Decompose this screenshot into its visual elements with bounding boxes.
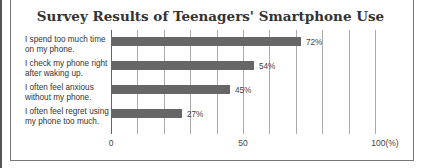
x-tick-label: 100(%) (371, 138, 398, 148)
category-label-line: on my phone. (25, 45, 110, 55)
category-label: I check my phone rightafter waking up. (25, 59, 110, 78)
category-label-line: without my phone. (25, 93, 110, 103)
value-label: 72% (306, 38, 322, 47)
category-label-line: after waking up. (25, 69, 110, 79)
chart-plot-area: I spend too much timeon my phone.72%I ch… (0, 0, 421, 168)
x-tick-label: 0 (109, 138, 114, 148)
gridline (349, 30, 350, 134)
category-label-line: I check my phone right (25, 59, 110, 69)
bar (111, 109, 182, 118)
bar (111, 85, 230, 94)
category-label: I often feel anxiouswithout my phone. (25, 83, 110, 102)
value-label: 27% (187, 110, 203, 119)
bar (111, 37, 301, 46)
bar (111, 61, 254, 70)
category-label: I spend too much timeon my phone. (25, 35, 110, 54)
category-label-line: I spend too much time (25, 35, 110, 45)
value-label: 54% (259, 62, 275, 71)
category-label-line: my phone too much. (25, 117, 110, 127)
category-label-line: I often feel anxious (25, 83, 110, 93)
category-label: I often feel regret usingmy phone too mu… (25, 107, 110, 126)
category-label-line: I often feel regret using (25, 107, 110, 117)
gridline (375, 30, 376, 134)
value-label: 45% (235, 86, 251, 95)
x-tick-label: 50 (238, 138, 247, 148)
